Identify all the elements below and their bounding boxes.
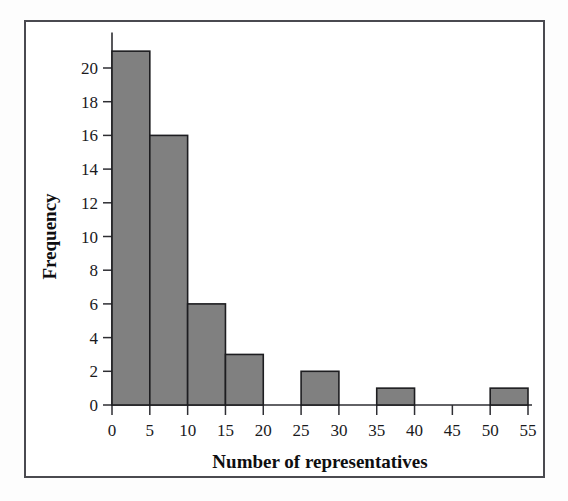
histogram-plot-area: 024681012141618200510152025303540455055N… <box>26 22 543 476</box>
y-axis-tick-label: 2 <box>90 362 99 381</box>
figure-frame: 024681012141618200510152025303540455055N… <box>24 20 545 478</box>
histogram-bar <box>225 354 263 405</box>
y-axis-tick-label: 14 <box>81 160 99 179</box>
page-background: 024681012141618200510152025303540455055N… <box>0 0 568 501</box>
x-axis-tick-label: 35 <box>368 421 385 440</box>
x-axis-tick-label: 40 <box>406 421 423 440</box>
y-axis-tick-label: 16 <box>81 126 98 145</box>
histogram-bar <box>188 304 226 405</box>
y-axis-tick-label: 8 <box>90 261 99 280</box>
x-axis-tick-label: 20 <box>255 421 272 440</box>
histogram-chart: 024681012141618200510152025303540455055N… <box>26 22 543 476</box>
x-axis-tick-label: 25 <box>293 421 310 440</box>
y-axis-tick-label: 18 <box>81 93 98 112</box>
y-axis-tick-label: 6 <box>90 295 99 314</box>
x-axis-title: Number of representatives <box>212 451 427 472</box>
y-axis-tick-label: 12 <box>81 194 98 213</box>
x-axis-tick-label: 45 <box>444 421 461 440</box>
y-axis-title: Frequency <box>39 193 60 280</box>
histogram-bar <box>377 388 415 405</box>
y-axis-tick-label: 0 <box>90 396 99 415</box>
histogram-bar <box>150 135 188 405</box>
x-axis-tick-label: 55 <box>520 421 537 440</box>
y-axis-tick-label: 20 <box>81 59 98 78</box>
x-axis-tick-label: 5 <box>146 421 155 440</box>
x-axis-tick-label: 10 <box>179 421 196 440</box>
y-axis-tick-label: 10 <box>81 228 98 247</box>
histogram-bar <box>112 51 150 405</box>
x-axis-tick-label: 15 <box>217 421 234 440</box>
x-axis-tick-label: 0 <box>108 421 117 440</box>
histogram-bar <box>301 371 339 405</box>
y-axis-tick-label: 4 <box>90 329 99 348</box>
histogram-bar <box>490 388 528 405</box>
x-axis-tick-label: 50 <box>482 421 499 440</box>
x-axis-tick-label: 30 <box>330 421 347 440</box>
